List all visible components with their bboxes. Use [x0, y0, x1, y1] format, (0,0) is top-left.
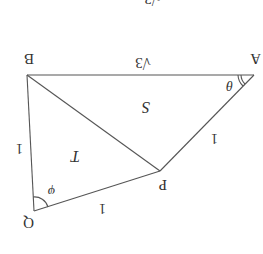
top-fragment-label: √3 [144, 0, 160, 7]
edge-ap [160, 75, 254, 171]
edge-label-pq: 1 [99, 201, 106, 216]
edge-label-ab: √3 [135, 55, 151, 71]
point-label-q: Q [23, 215, 34, 231]
angle-arc-q-icon [33, 197, 48, 207]
point-label-b: B [24, 51, 34, 67]
edge-qb [27, 75, 34, 211]
edge-bp [27, 75, 160, 171]
angle-label-phi: φ [48, 185, 55, 200]
angle-label-theta: θ [226, 78, 233, 93]
edge-label-qb: 1 [16, 141, 23, 156]
point-label-a: A [250, 51, 261, 67]
area-label-t: T [70, 148, 80, 165]
area-label-s: S [142, 99, 150, 116]
quadrilateral-diagram: A B P Q √3 1 1 1 S T θ φ √3 [0, 0, 263, 254]
angle-arc-a-inner-icon [241, 75, 245, 84]
edge-label-ap: 1 [211, 131, 218, 146]
point-label-p: P [159, 177, 167, 193]
